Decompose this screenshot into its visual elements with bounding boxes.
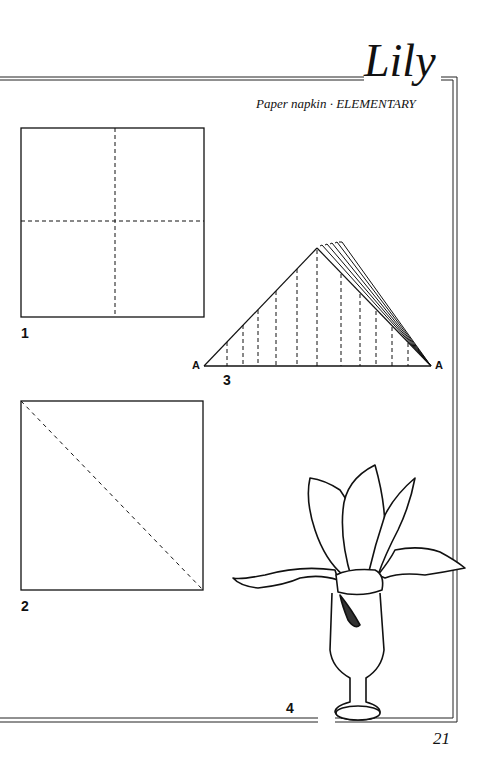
step-number-2: 2	[21, 598, 29, 614]
book-page: Lily Paper napkin · ELEMENTARY 1 2 3 4 A…	[0, 0, 492, 772]
step-number-4: 4	[286, 700, 294, 716]
step-number-1: 1	[21, 325, 29, 341]
page-illustrations	[0, 0, 492, 772]
step3-diagram	[204, 242, 431, 366]
point-label-a-left: A	[192, 359, 200, 371]
step-number-3: 3	[223, 372, 231, 388]
page-title: Lily	[364, 38, 436, 84]
step1-diagram	[21, 128, 204, 317]
step2-diagram	[21, 401, 203, 590]
page-subtitle: Paper napkin · ELEMENTARY	[256, 96, 416, 112]
step4-lily-illustration	[233, 465, 465, 720]
frame-border	[0, 77, 457, 722]
point-label-a-right: A	[435, 359, 443, 371]
page-number: 21	[433, 729, 450, 749]
